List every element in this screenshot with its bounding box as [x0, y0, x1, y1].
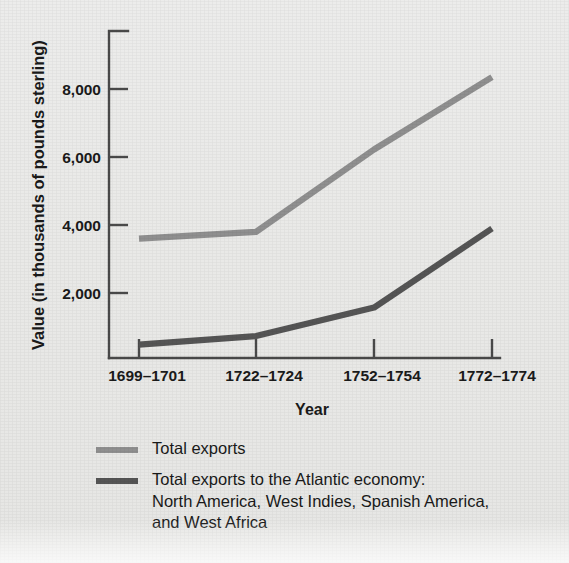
legend-label-atlantic-exports: Total exports to the Atlantic economy: N…: [152, 469, 489, 533]
y-tick-label-8000: 8,000: [62, 81, 101, 98]
legend-swatch-dark-icon: [96, 478, 138, 484]
y-tick-label-2000: 2,000: [62, 285, 101, 302]
y-axis-title: Value (in thousands of pounds sterling): [29, 40, 47, 350]
x-tick-label-1699-1701: 1699–1701: [108, 367, 186, 384]
legend-swatch-light-icon: [96, 447, 138, 453]
series-line-atlantic-exports: [139, 229, 492, 345]
y-tick-label-4000: 4,000: [62, 217, 101, 234]
legend-label-total-exports: Total exports: [152, 438, 246, 459]
figure-page: Value (in thousands of pounds sterling) …: [0, 0, 569, 563]
series-line-total-exports: [139, 77, 492, 238]
x-axis-title: Year: [295, 401, 329, 418]
y-tick-label-6000: 6,000: [62, 149, 101, 166]
legend-item-total-exports: Total exports: [96, 438, 556, 459]
x-tick-label-1752-1754: 1752–1754: [343, 367, 421, 384]
legend-item-atlantic-exports: Total exports to the Atlantic economy: N…: [96, 469, 556, 533]
legend: Total exports Total exports to the Atlan…: [96, 438, 556, 544]
x-tick-label-1722-1724: 1722–1724: [225, 367, 303, 384]
y-tick-marks: [109, 89, 128, 293]
y-axis-line: [109, 31, 128, 358]
x-tick-label-1772-1774: 1772–1774: [458, 367, 536, 384]
